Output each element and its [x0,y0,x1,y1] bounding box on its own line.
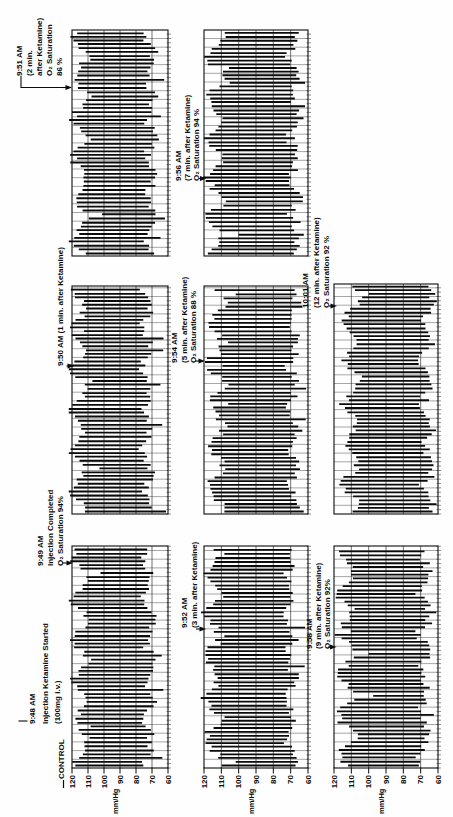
scanned-figure-page: 1201101009080706012011010090807060120110… [0,0,453,817]
tracing-panel-r1c1 [69,546,171,768]
y-tick-label: 110 [217,774,226,787]
annotation-control: CONTROL [57,739,67,779]
down-arrow-icon [66,85,73,90]
y-axis-unit-row1: mm/Hg [111,789,120,814]
tracing-panel-r3c2 [334,284,441,514]
rotated-landscape-figure: 1201101009080706012011010090807060120110… [0,0,453,817]
annotation-948-injection-started: 9:48 AM Injection Ketamine Started (100m… [27,623,65,724]
pressure-waveform [203,33,305,254]
y-tick-label: 60 [164,774,173,783]
annotation-line: 9:56 AM [174,95,183,181]
y-tick-label: 60 [304,774,313,783]
annotation-line: 9:50 AM (1 min. after Ketamine) [56,247,66,366]
annotation-line: (100mg i.v.) [52,623,65,724]
y-tick-label: 80 [399,774,408,783]
annotation-line: 10:01 AM [301,217,312,308]
annotation-control-label: CONTROL [57,739,67,779]
down-arrow-icon [200,626,207,631]
pressure-waveform [69,33,165,253]
annotation-line: (12 min. after Ketamine) [312,217,323,308]
pressure-waveform [339,287,437,512]
y-axis-row2: 12011010090807060 [200,768,313,789]
annotation-line: O₂ Saturation [45,18,55,76]
annotation-line: Injection Ketamine Started [40,623,53,724]
annotation-line: O₂ Saturation 94 % [192,95,201,181]
y-tick-label: 60 [434,774,443,783]
y-axis-unit-row3: mm/Hg [377,789,386,814]
annotation-952-3min: 9:52 AM (3 min. after Ketamine) [180,542,200,628]
down-arrow-icon [68,363,75,368]
y-tick-label: 80 [132,774,141,783]
y-tick-label: 70 [148,774,157,783]
y-axis-row3: 12011010090807060 [330,768,443,789]
y-tick-label: 90 [116,774,125,783]
annotation-line: (7 min. after Ketamine) [183,95,192,181]
y-tick-label: 110 [347,774,356,787]
annotation-line: 9:48 AM [27,623,40,724]
y-tick-label: 100 [234,774,243,788]
annotation-line: 9:51 AM [15,18,25,76]
annotation-951-2min: 9:51 AM (2 min. after Ketamine) O₂ Satur… [15,18,65,76]
annotation-949-injection-completed: 9:49 AM Injection Completed O₂ Saturatio… [36,490,66,566]
blood-pressure-tracing-chart: 1201101009080706012011010090807060120110… [0,0,453,817]
tracing-panel-r1c2 [69,286,171,514]
annotation-line: (2 min. [25,18,35,76]
y-tick-label: 90 [252,774,261,783]
tracing-panel-r2c3 [203,30,311,256]
y-tick-label: 70 [416,774,425,783]
annotation-954-5min: 9:54 AM (5 min. after Ketamine) O₂ Satur… [170,277,199,363]
y-tick-label: 80 [269,774,278,783]
annotation-line: after Ketamine) [35,18,45,76]
annotation-line: (3 min. after Ketamine) [190,542,200,628]
annotation-line: (5 min. after Ketamine) [180,277,190,363]
y-axis-unit-row2: mm/Hg [247,789,256,814]
annotation-line: Injection Completed [46,490,56,566]
tracing-panel-r2c2 [204,286,311,514]
annotation-line: 9:58 AM [305,563,314,649]
y-tick-label: 90 [382,774,391,783]
annotation-line: O₂ Saturation 88 % [189,277,199,363]
y-tick-label: 110 [84,774,93,787]
tracing-panel-r3c1 [334,546,441,768]
annotation-line: O₂ Saturation 92 % [322,217,333,308]
annotation-1001-12min: 10:01 AM (12 min. after Ketamine) O₂ Sat… [301,217,333,308]
y-tick-label: 100 [364,774,373,788]
tracing-panel-r2c1 [201,546,311,768]
annotation-950-1min: 9:50 AM (1 min. after Ketamine) [56,247,66,366]
y-tick-label: 120 [330,774,339,788]
y-axis-row1: 12011010090807060 [68,768,173,789]
annotation-line: (9 min. after Ketamine) [314,563,323,649]
y-tick-label: 100 [100,774,109,788]
annotation-line: 9:49 AM [36,490,46,566]
y-tick-label: 120 [200,774,209,788]
y-tick-label: 120 [68,774,77,788]
tracing-panel-r1c3 [69,30,171,256]
pressure-waveform [69,290,166,512]
annotation-line: 9:54 AM [170,277,180,363]
annotation-line: O₂ Saturation 92% [323,563,332,649]
annotation-line: 9:52 AM [180,542,190,628]
annotation-956-7min: 9:56 AM (7 min. after Ketamine) O₂ Satur… [174,95,201,181]
annotation-line: 86 % [55,18,65,76]
annotation-958-9min: 9:58 AM (9 min. after Ketamine) O₂ Satur… [305,563,332,649]
y-tick-label: 70 [286,774,295,783]
annotation-line: O₂ Saturation 94% [56,490,66,566]
